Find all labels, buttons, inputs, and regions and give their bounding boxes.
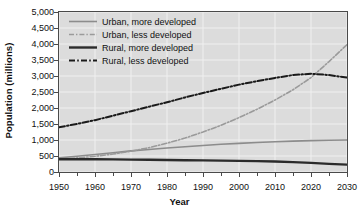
y-tick-label: 3,500 (31, 55, 54, 65)
x-tick-mark (77, 173, 78, 176)
x-tick-mark (203, 173, 204, 177)
legend-line-swatch (68, 29, 98, 40)
x-tick-label: 1950 (49, 182, 69, 192)
legend-line-swatch (68, 16, 98, 27)
x-tick-mark (329, 173, 330, 176)
y-axis-tick-labels: 05001,0001,5002,0002,5003,0003,5004,0004… (14, 0, 54, 180)
y-tick-label: 3,000 (31, 71, 54, 81)
x-tick-mark (131, 173, 132, 177)
x-tick-mark (275, 173, 276, 177)
y-axis-title-text: Population (millions) (3, 42, 14, 138)
x-tick-mark (149, 173, 150, 176)
x-tick-mark (113, 173, 114, 176)
y-tick-mark (54, 28, 58, 29)
y-tick-mark (54, 76, 58, 77)
y-tick-mark (54, 124, 58, 125)
legend-line-swatch (68, 55, 98, 66)
x-tick-label: 2020 (301, 182, 321, 192)
y-tick-mark (54, 60, 58, 61)
y-tick-mark (54, 12, 58, 13)
x-axis-title: Year (0, 196, 359, 207)
y-tick-label: 5,000 (31, 7, 54, 17)
y-tick-label: 1,000 (31, 135, 54, 145)
x-tick-mark (221, 173, 222, 176)
y-tick-label: 500 (39, 151, 54, 161)
y-tick-mark (54, 156, 58, 157)
x-axis-tick-labels: 195019601970198019902000201020202030 (0, 176, 359, 192)
x-tick-mark (95, 173, 96, 177)
x-tick-mark (311, 173, 312, 177)
x-tick-mark (257, 173, 258, 176)
y-tick-mark (54, 108, 58, 109)
x-tick-label: 1970 (121, 182, 141, 192)
chart-legend: Urban, more developedUrban, less develop… (66, 13, 236, 69)
legend-item-label: Rural, more developed (98, 43, 193, 53)
legend-item: Urban, less developed (68, 28, 233, 41)
legend-item: Rural, less developed (68, 54, 233, 67)
x-tick-label: 2010 (265, 182, 285, 192)
legend-item: Urban, more developed (68, 15, 233, 28)
y-tick-label: 2,000 (31, 103, 54, 113)
x-tick-mark (167, 173, 168, 177)
legend-line-swatch (68, 42, 98, 53)
x-tick-mark (293, 173, 294, 176)
y-tick-label: 4,500 (31, 23, 54, 33)
x-tick-mark (347, 173, 348, 177)
x-tick-mark (185, 173, 186, 176)
legend-item: Rural, more developed (68, 41, 233, 54)
y-tick-mark (54, 172, 58, 173)
y-tick-label: 1,500 (31, 119, 54, 129)
y-tick-label: 2,500 (31, 87, 54, 97)
x-tick-label: 1990 (193, 182, 213, 192)
x-tick-label: 1960 (85, 182, 105, 192)
legend-item-label: Urban, more developed (98, 17, 196, 27)
x-tick-label: 2030 (337, 182, 357, 192)
x-tick-mark (239, 173, 240, 177)
x-tick-label: 1980 (157, 182, 177, 192)
y-tick-mark (54, 140, 58, 141)
y-tick-label: 4,000 (31, 39, 54, 49)
x-tick-mark (59, 173, 60, 177)
legend-item-label: Urban, less developed (98, 30, 192, 40)
y-tick-mark (54, 44, 58, 45)
legend-item-label: Rural, less developed (98, 56, 189, 66)
x-tick-label: 2000 (229, 182, 249, 192)
y-tick-mark (54, 92, 58, 93)
population-line-chart: Population (millions) 05001,0001,5002,00… (0, 0, 359, 213)
